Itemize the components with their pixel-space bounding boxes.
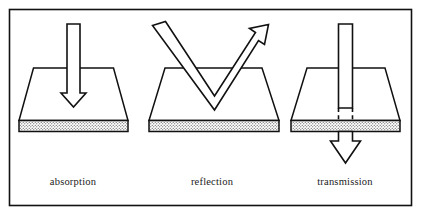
diagram-figure: absorption reflection trans <box>0 0 421 217</box>
panel-transmission: transmission <box>291 24 400 187</box>
absorption-incoming-beam-arrow <box>61 24 86 107</box>
panel-reflection: reflection <box>149 22 279 188</box>
absorption-label: absorption <box>50 176 97 187</box>
reflection-label: reflection <box>191 176 234 187</box>
transmission-incoming-beam <box>339 24 353 108</box>
transmission-exiting-beam-arrow <box>331 132 361 164</box>
transmission-label: transmission <box>317 176 373 187</box>
absorption-substrate-layer <box>19 121 128 132</box>
reflection-substrate-layer <box>149 121 279 132</box>
transmission-substrate-layer <box>291 121 400 132</box>
diagram-canvas: absorption reflection trans <box>0 0 421 217</box>
panel-absorption: absorption <box>19 24 128 187</box>
